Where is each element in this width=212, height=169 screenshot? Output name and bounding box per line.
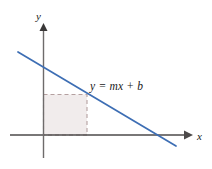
x-axis-label: x	[196, 130, 202, 142]
y-axis-arrow-icon	[40, 23, 48, 31]
figure-svg: y x y = mx + b	[0, 0, 212, 169]
function-line	[18, 52, 176, 146]
figure-container: y x y = mx + b	[0, 0, 212, 169]
line-equation-label: y = mx + b	[89, 80, 143, 93]
y-axis-label: y	[35, 10, 41, 22]
shaded-rectangle	[44, 95, 88, 136]
x-axis-arrow-icon	[184, 131, 193, 140]
